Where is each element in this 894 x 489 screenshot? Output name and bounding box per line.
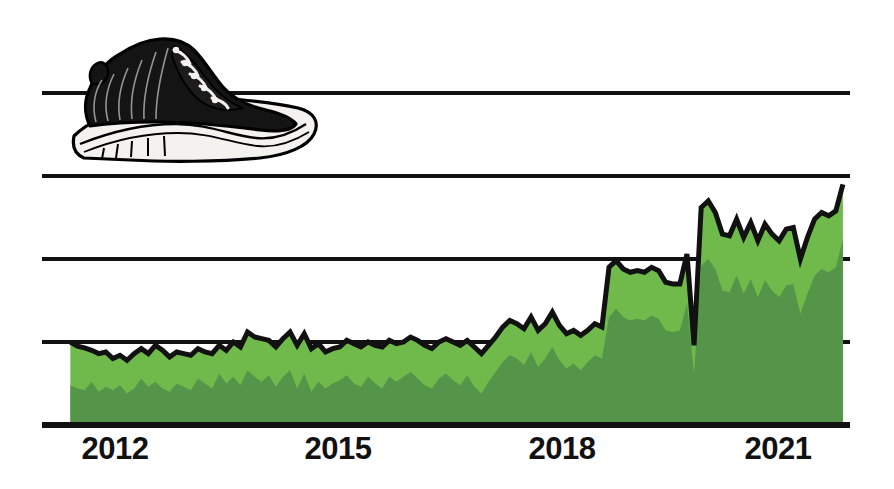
x-axis-tick-2018: 2018 <box>529 431 596 467</box>
chart-figure: 2012 2015 2018 2021 <box>0 0 894 489</box>
sneaker-illustration <box>73 39 316 161</box>
x-axis-tick-2012: 2012 <box>82 431 149 467</box>
x-axis-tick-2015: 2015 <box>305 431 372 467</box>
area-chart-canvas <box>0 0 894 489</box>
x-axis-tick-2021: 2021 <box>745 431 812 467</box>
sneaker-heel-tab <box>90 62 108 84</box>
